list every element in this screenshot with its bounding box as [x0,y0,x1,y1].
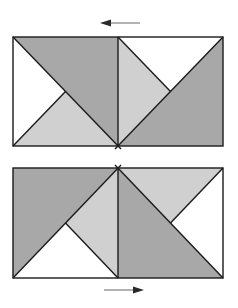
top-figure [13,37,223,149]
arrow-left-icon [100,20,140,27]
tangram-diagram [0,0,238,308]
bottom-figure [13,165,223,278]
arrow-right-icon [104,287,144,294]
